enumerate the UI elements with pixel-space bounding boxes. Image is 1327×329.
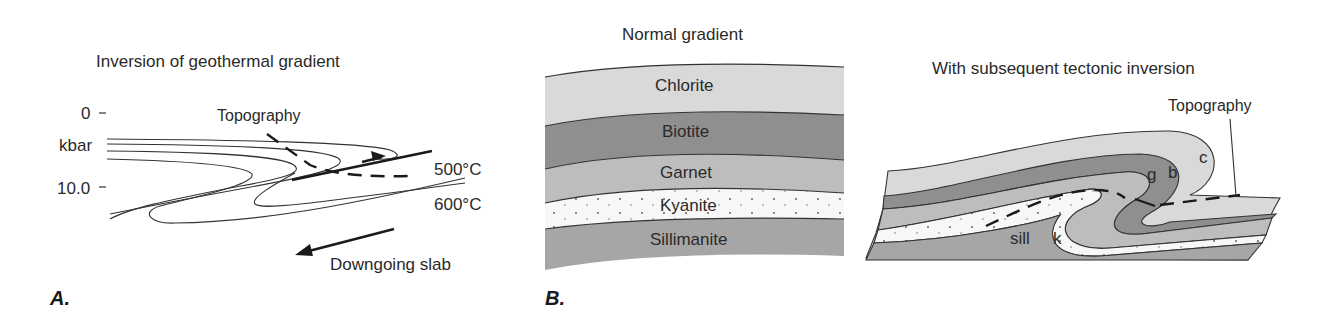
zone-label-sillimanite: Sillimanite bbox=[650, 230, 727, 249]
zone-abbrev-k: k bbox=[1053, 229, 1062, 248]
downgoing-slab-label: Downgoing slab bbox=[330, 255, 451, 274]
panel-a: Inversion of geothermal gradient 0 kbar … bbox=[49, 52, 481, 309]
axis-unit-kbar: kbar bbox=[59, 136, 92, 155]
normal-gradient-title: Normal gradient bbox=[622, 25, 743, 44]
zone-abbrev-sill: sill bbox=[1010, 229, 1030, 248]
slab-arrow-line bbox=[305, 229, 394, 252]
inversion-topography-label: Topography bbox=[1168, 97, 1252, 114]
zone-abbrev-g: g bbox=[1147, 165, 1156, 184]
figure-canvas: Inversion of geothermal gradient 0 kbar … bbox=[0, 0, 1327, 329]
panel-b-inverted: With subsequent tectonic inversion Topog… bbox=[866, 59, 1280, 260]
zone-label-garnet: Garnet bbox=[660, 163, 712, 182]
zone-label-kyanite: Kyanite bbox=[660, 196, 717, 215]
zone-abbrev-c: c bbox=[1199, 148, 1208, 167]
zone-label-chlorite: Chlorite bbox=[655, 76, 714, 95]
isotherm-600-label: 600°C bbox=[434, 195, 481, 214]
isotherm-curves bbox=[107, 139, 465, 223]
panel-a-title: Inversion of geothermal gradient bbox=[96, 52, 340, 71]
zone-label-biotite: Biotite bbox=[662, 122, 709, 141]
panel-b-label: B. bbox=[545, 287, 565, 309]
axis-tick-10: 10.0 bbox=[57, 179, 90, 198]
topography-label: Topography bbox=[217, 107, 301, 124]
topography-leader-line bbox=[1230, 119, 1236, 196]
inversion-title: With subsequent tectonic inversion bbox=[932, 59, 1195, 78]
panel-a-label: A. bbox=[49, 287, 70, 309]
slab-arrowhead-icon bbox=[295, 244, 313, 256]
axis-tick-0: 0 bbox=[81, 104, 90, 123]
panel-b-normal: Normal gradient Chlorite Biotite Garnet … bbox=[545, 25, 844, 309]
isotherm-500-label: 500°C bbox=[434, 160, 481, 179]
zone-abbrev-b: b bbox=[1168, 163, 1177, 182]
